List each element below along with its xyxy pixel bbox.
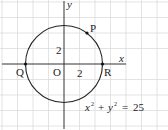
point-q — [24, 62, 27, 65]
svg-text:x: x — [84, 101, 90, 113]
svg-text:y: y — [107, 101, 113, 113]
coordinate-diagram: y x O 2 2 P Q R x 2 + y 2 = 25 — [0, 0, 168, 130]
point-q-label: Q — [16, 66, 24, 78]
circle-equation: x 2 + y 2 = 25 — [84, 101, 145, 113]
point-p — [85, 31, 88, 34]
y-axis-label: y — [66, 0, 72, 10]
svg-text:2: 2 — [91, 101, 94, 107]
origin-label: O — [53, 66, 61, 78]
svg-text:=: = — [122, 101, 128, 113]
x-tick-label: 2 — [77, 67, 83, 79]
point-p-label: P — [90, 22, 96, 34]
svg-text:+: + — [98, 101, 104, 113]
point-r-label: R — [104, 66, 112, 78]
svg-text:2: 2 — [114, 101, 117, 107]
y-tick-label: 2 — [56, 44, 62, 56]
x-axis-label: x — [118, 52, 124, 64]
svg-text:25: 25 — [133, 101, 145, 113]
